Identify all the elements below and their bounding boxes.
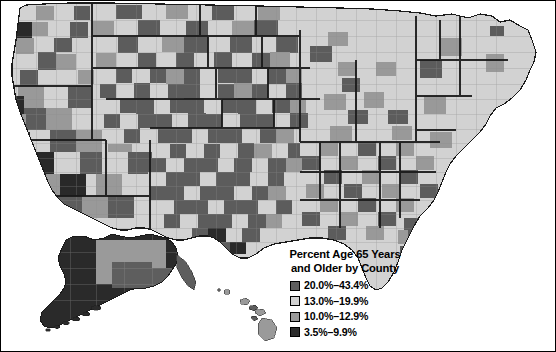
legend-swatch-20-0-43-4 [290,281,300,291]
legend-item-3: 3.5%–9.9% [276,325,414,341]
legend-item-0: 20.0%–43.4% [276,278,414,294]
legend-label-1: 13.0%–19.9% [304,296,368,307]
legend-label-0: 20.0%–43.4% [304,280,368,291]
legend-title: Percent Age 65 Years and Older by County [276,248,414,275]
legend-item-1: 13.0%–19.9% [276,294,414,310]
legend-swatch-10-0-12-9 [290,312,300,322]
legend-swatch-3-5-9-9 [290,327,300,337]
map-legend: Percent Age 65 Years and Older by County… [276,248,414,340]
alaska-panhandle [176,254,196,290]
legend-label-2: 10.0%–12.9% [304,311,368,322]
legend-label-3: 3.5%–9.9% [304,327,357,338]
legend-swatch-13-0-19-9 [290,296,300,306]
legend-item-2: 10.0%–12.9% [276,309,414,325]
choropleth-map-figure: Percent Age 65 Years and Older by County… [0,0,556,352]
hawaii-inset [217,289,277,341]
alaska-inset [40,230,190,330]
